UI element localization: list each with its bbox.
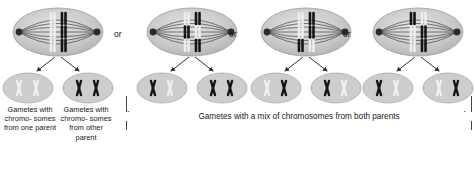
or-separator-1: or — [114, 29, 121, 39]
mix-bracket-text: Gametes with a mix of chromosomes from b… — [194, 112, 403, 121]
or-separator-2: or — [229, 29, 236, 39]
meiosis-group-1: Gametes with chromo- somes from one pare… — [0, 0, 115, 178]
caption-right: Gametes with chromo- somes from other pa… — [58, 105, 114, 142]
caption-left: Gametes with chromo- somes from one pare… — [2, 105, 58, 133]
gametes-1 — [2, 72, 114, 104]
mix-bracket-label: Gametes with a mix of chromosomes from b… — [125, 112, 473, 121]
gamete-1a — [2, 72, 54, 104]
parent-cell-2 — [144, 6, 240, 58]
diagram-canvas: Gametes with chromo- somes from one pare… — [0, 0, 475, 178]
parent-cell-4 — [370, 6, 466, 58]
meiosis-group-3 — [248, 0, 363, 178]
meiosis-group-2 — [134, 0, 249, 178]
or-separator-3: or — [343, 29, 350, 39]
gamete-1b — [62, 72, 114, 104]
parent-cell-1 — [10, 6, 106, 58]
parent-cell-3 — [258, 6, 354, 58]
meiosis-group-4 — [360, 0, 475, 178]
